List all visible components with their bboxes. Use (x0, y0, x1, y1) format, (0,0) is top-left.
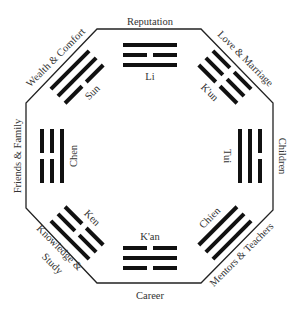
bagua-diagram: Reputation Career Children Friends & Fam… (0, 0, 304, 312)
area-label-friends-family: Friends & Family (12, 118, 23, 193)
area-label-career: Career (136, 290, 164, 301)
trigram-label-kun: K'un (199, 81, 221, 103)
trigram-label-tui: Tui (222, 149, 233, 163)
trigram-label-chen: Chen (68, 144, 79, 167)
trigram-label-ken: Ken (82, 208, 103, 229)
trigram-li: Li (123, 43, 177, 82)
trigram-kan: K'an (123, 231, 177, 270)
area-label-wealth-comfort: Wealth & Comfort (24, 26, 87, 89)
area-label-love-marriage: Love & Marriage (216, 29, 276, 89)
trigram-label-li: Li (145, 71, 154, 82)
area-label-children: Children (277, 138, 288, 175)
area-label-reputation: Reputation (127, 16, 174, 27)
trigram-chen: Chen (40, 129, 79, 183)
trigram-label-kan: K'an (140, 231, 160, 242)
trigram-tui: Tui (222, 129, 262, 183)
trigram-label-sun: Sun (83, 82, 103, 102)
